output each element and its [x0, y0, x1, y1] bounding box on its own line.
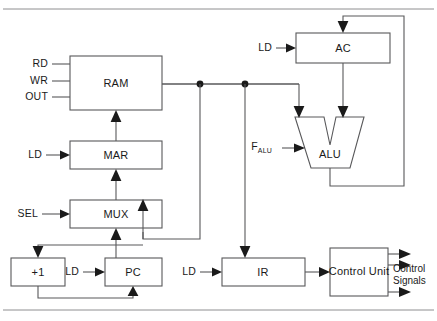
control-signals-label-line1: Control: [393, 263, 425, 274]
bus-to-ir-arrowhead: [240, 246, 251, 258]
pc-increment-return-wire: [38, 286, 133, 298]
ram-rd-label: RD: [32, 57, 48, 69]
pc-increment-return-arrowhead: [128, 286, 139, 296]
mux-sel-arrowhead: [60, 209, 70, 218]
pc-label: PC: [125, 266, 141, 278]
pc-ld-arrowhead: [95, 267, 105, 276]
ac-label: AC: [335, 42, 351, 54]
inc-feed-wire: [38, 245, 143, 246]
alu-function-label: FALU: [251, 140, 272, 154]
control-signals-label-line2: Signals: [393, 275, 426, 286]
alu-to-ac-feedback-arrowhead: [338, 21, 349, 33]
ac-ld-label: LD: [258, 41, 272, 53]
control-unit-label: Control Unit: [329, 265, 389, 277]
pc-to-mux-arrowhead: [111, 228, 122, 240]
bus-to-alu-arrowhead: [294, 106, 305, 118]
ram-label: RAM: [103, 77, 128, 89]
alu-block: [295, 117, 364, 168]
mar-to-ram-arrowhead: [111, 110, 122, 122]
inc-feed-arrowhead: [33, 246, 44, 258]
mar-ld-label: LD: [28, 148, 42, 160]
pc-ld-label: LD: [65, 265, 79, 277]
ram-wr-label: WR: [30, 74, 48, 86]
ram-out-label: OUT: [25, 90, 48, 102]
ac-ld-arrowhead: [286, 43, 296, 52]
mux-to-mar-arrowhead: [111, 169, 122, 181]
ir-label: IR: [257, 266, 268, 278]
alu-label: ALU: [319, 148, 341, 160]
control-signal-arrowhead-1: [399, 249, 411, 259]
ir-ld-arrowhead: [212, 267, 222, 276]
increment-label: +1: [32, 266, 45, 278]
alu-function-letter: F: [251, 140, 258, 152]
cpu-datapath-diagram: RAM MAR MUX +1 PC IR AC ALU Control Unit…: [0, 0, 437, 321]
alu-function-subscript: ALU: [258, 146, 272, 153]
ac-to-alu-arrowhead: [338, 106, 349, 118]
mux-sel-label: SEL: [18, 207, 38, 219]
mar-label: MAR: [103, 149, 128, 161]
ir-ld-label: LD: [182, 265, 196, 277]
control-signal-arrowhead-3: [399, 287, 411, 297]
mux-label: MUX: [103, 208, 129, 220]
mar-ld-arrowhead: [60, 150, 70, 159]
diagram-canvas: RAM MAR MUX +1 PC IR AC ALU Control Unit…: [0, 0, 437, 321]
